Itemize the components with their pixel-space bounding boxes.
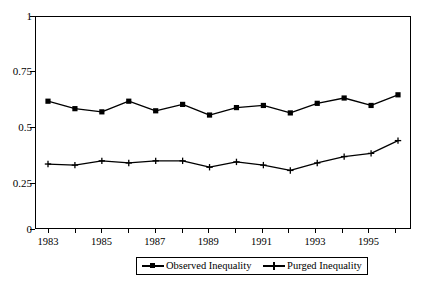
- chart-legend: Observed Inequality Purged Inequality: [136, 257, 368, 275]
- x-axis-label-1983: 1983: [28, 236, 68, 248]
- legend-item-purged-inequality[interactable]: Purged Inequality: [263, 259, 362, 272]
- x-axis-label-1995: 1995: [348, 236, 388, 248]
- x-tick-mark: [288, 229, 289, 233]
- x-axis-label-1987: 1987: [135, 236, 175, 248]
- x-tick-mark: [315, 229, 316, 233]
- x-tick-mark: [75, 229, 76, 233]
- y-axis-label-0.75: 0.75: [2, 66, 32, 77]
- x-tick-mark: [395, 229, 396, 233]
- x-tick-mark: [368, 229, 369, 233]
- x-tick-mark: [235, 229, 236, 233]
- x-axis-label-1985: 1985: [81, 236, 121, 248]
- legend-label-purged: Purged Inequality: [287, 260, 362, 272]
- y-axis-label-0.25: 0.25: [2, 178, 32, 189]
- x-axis-label-1989: 1989: [188, 236, 228, 248]
- chart-container: 1 0.75 0.5 0.25 0 1983 1985 1987 1989 19…: [0, 0, 422, 282]
- plot-area: [35, 16, 411, 229]
- x-tick-mark: [128, 229, 129, 233]
- legend-item-observed-inequality[interactable]: Observed Inequality: [142, 259, 251, 272]
- x-tick-mark: [208, 229, 209, 233]
- x-axis-label-1993: 1993: [295, 236, 335, 248]
- x-tick-mark: [155, 229, 156, 233]
- x-axis-label-1991: 1991: [242, 236, 282, 248]
- y-axis-label-0.5: 0.5: [2, 122, 32, 133]
- x-tick-mark: [101, 229, 102, 233]
- legend-label-observed: Observed Inequality: [166, 260, 251, 272]
- plus-marker-icon: [263, 261, 285, 271]
- y-axis-label-1: 1: [2, 11, 32, 22]
- x-tick-mark: [262, 229, 263, 233]
- square-marker-icon: [142, 261, 164, 271]
- y-axis-label-0: 0: [2, 224, 32, 235]
- x-tick-mark: [182, 229, 183, 233]
- x-tick-mark: [342, 229, 343, 233]
- x-tick-mark: [48, 229, 49, 233]
